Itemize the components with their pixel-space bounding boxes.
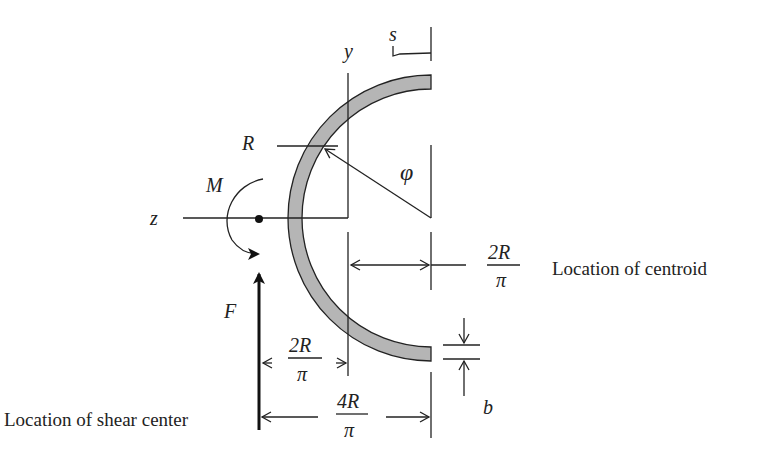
thickness-label: b [483,396,493,418]
shear-center-caption: Location of shear center [4,409,189,430]
s-label: s [389,23,397,45]
offset-dim-denominator: π [297,363,308,385]
centroid-dim-numerator: 2R [488,241,510,263]
radius-label: R [241,132,254,154]
total-dim-numerator: 4R [337,390,359,412]
y-axis-label: y [342,40,353,63]
offset-dim-numerator: 2R [289,334,311,356]
centroid-dim-denominator: π [496,269,507,291]
shear-center-dot [255,215,263,223]
radius-line [325,149,431,218]
force-label: F [223,300,237,322]
total-dim-denominator: π [344,419,355,441]
shear-center-diagram: y z s R φ M F 2R π Location of centroid … [0,0,771,475]
moment-label: M [205,174,224,196]
angle-label: φ [400,159,413,185]
z-axis-label: z [149,207,158,229]
s-arrow [393,46,431,56]
centroid-caption: Location of centroid [552,258,708,279]
